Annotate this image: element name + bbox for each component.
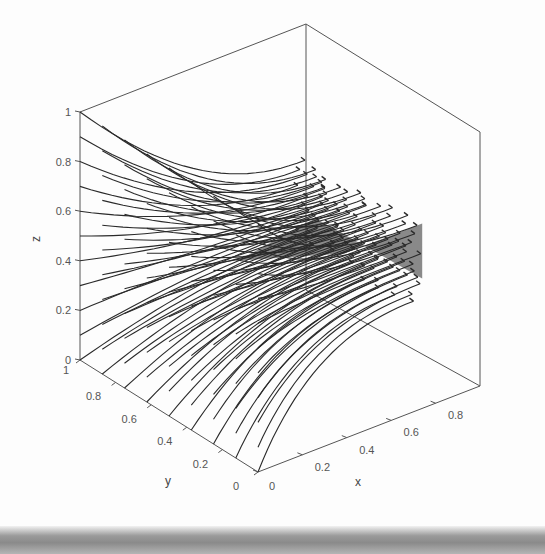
z-tick-label: 0.8: [56, 156, 71, 168]
z-tick-label: 1: [65, 106, 71, 118]
z-tick-label: 0.6: [56, 205, 71, 217]
z-axis-label: z: [29, 236, 43, 242]
page-edge-band: [0, 526, 545, 554]
z-tick-label: 0.2: [56, 304, 71, 316]
z-axis: 00.20.40.60.81 z: [29, 106, 80, 366]
y-tick-label: 0.2: [193, 458, 208, 470]
figure: 00.20.40.60.81 z 00.20.40.60.81 y 00.20.…: [0, 0, 545, 554]
x-tick-label: 0.2: [315, 461, 330, 473]
x-tick-label: 0.4: [359, 444, 374, 456]
streamline-plot: 00.20.40.60.81 z 00.20.40.60.81 y 00.20.…: [0, 0, 545, 554]
y-tick-label: 0.4: [157, 435, 172, 447]
x-tick-label: 0: [269, 480, 275, 492]
z-tick-label: 0.4: [56, 255, 71, 267]
y-axis-label: y: [165, 474, 171, 488]
y-tick-label: 0.8: [86, 390, 101, 402]
y-tick-label: 1: [63, 364, 69, 376]
x-axis: 00.20.40.60.8 x: [253, 401, 463, 492]
x-tick-label: 0.6: [404, 426, 419, 438]
y-tick-label: 0: [233, 480, 239, 492]
y-tick-label: 0.6: [122, 413, 137, 425]
x-axis-label: x: [355, 475, 361, 489]
x-tick-label: 0.8: [448, 409, 463, 421]
